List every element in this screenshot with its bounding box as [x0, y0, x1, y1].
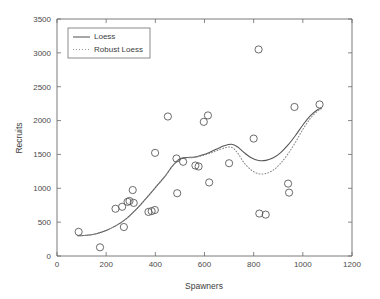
loess-scatter-chart: 0500100015002000250030003500 02004006008…: [0, 0, 380, 299]
y-axis-title: Recruits: [14, 122, 24, 153]
legend-label-loess: Loess: [94, 32, 115, 41]
x-tick-label: 1000: [294, 260, 312, 269]
y-tick-label: 2500: [33, 83, 51, 92]
x-tick-label: 600: [198, 260, 212, 269]
legend-label-robust-loess: Robust Loess: [94, 45, 143, 54]
x-tick-label: 200: [99, 260, 113, 269]
x-axis-title: Spawners: [185, 281, 223, 291]
y-tick-label: 3500: [33, 15, 51, 24]
x-tick-label: 1200: [343, 260, 361, 269]
x-tick-label: 400: [149, 260, 163, 269]
chart-figure: 0500100015002000250030003500 02004006008…: [0, 0, 380, 299]
y-tick-label: 0: [47, 252, 52, 261]
y-tick-label: 1000: [33, 184, 51, 193]
y-tick-label: 1500: [33, 150, 51, 159]
x-tick-label: 800: [247, 260, 261, 269]
y-tick-label: 500: [38, 218, 52, 227]
y-tick-label: 3000: [33, 49, 51, 58]
chart-legend[interactable]: LoessRobust Loess: [68, 28, 150, 58]
y-tick-label: 2000: [33, 116, 51, 125]
x-tick-label: 0: [55, 260, 60, 269]
